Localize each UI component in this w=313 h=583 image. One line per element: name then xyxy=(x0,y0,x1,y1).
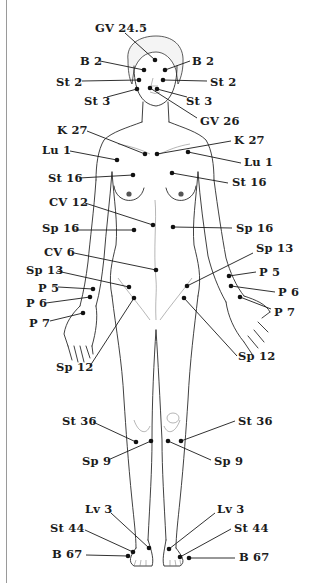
acupoint-dot-sp13_l xyxy=(127,285,132,290)
acupoint-dot-sp16_r xyxy=(171,225,176,230)
leader-line-p5_r xyxy=(229,272,256,276)
leader-line-p5_l xyxy=(58,287,93,289)
point-label-p6_l: P 6 xyxy=(26,297,47,309)
point-label-st3_r: St 3 xyxy=(186,95,212,107)
point-label-lu1_l: Lu 1 xyxy=(42,144,71,156)
point-label-st16_r: St 16 xyxy=(232,176,267,188)
acupoint-dot-st2_r xyxy=(161,78,166,83)
acupoint-dot-b67_r xyxy=(187,556,192,561)
leader-line-p7_l xyxy=(50,313,83,321)
acupoint-dot-b2_l xyxy=(142,68,147,73)
acupoint-dot-p5_l xyxy=(91,287,96,292)
point-label-k27_l: K 27 xyxy=(57,124,88,136)
acupoint-dot-lv3_r xyxy=(167,547,172,552)
point-label-gv26: GV 26 xyxy=(200,115,240,127)
acupoint-dot-lu1_r xyxy=(186,150,191,155)
point-label-st2_r: St 2 xyxy=(210,76,236,88)
acupoint-dot-lv3_l xyxy=(147,546,152,551)
point-label-sp9_r: Sp 9 xyxy=(214,455,243,467)
acupoint-dot-sp16_l xyxy=(132,228,137,233)
acupoint-dot-cv12 xyxy=(151,223,156,228)
point-label-sp16_l: Sp 16 xyxy=(42,222,79,234)
point-label-lv3_r: Lv 3 xyxy=(217,503,245,515)
acupoint-dot-st36_r xyxy=(179,439,184,444)
acupoint-dot-b67_l xyxy=(126,554,131,559)
acupoint-dot-sp9_l xyxy=(149,439,154,444)
point-label-sp13_r: Sp 13 xyxy=(256,242,293,254)
leader-line-k27_r xyxy=(157,141,231,154)
point-label-cv6: CV 6 xyxy=(44,246,75,258)
point-label-b67_r: B 67 xyxy=(239,551,270,563)
acupressure-diagram: GV 24.5B 2B 2St 2St 2St 3St 3GV 26K 27K … xyxy=(0,0,313,583)
leader-line-sp9_r xyxy=(168,441,211,460)
leader-line-st3_l xyxy=(107,89,137,97)
leader-line-sp13_l xyxy=(57,271,129,287)
point-label-st36_l: St 36 xyxy=(62,415,97,427)
acupoint-dot-st16_r xyxy=(170,171,175,176)
leader-line-st16_r xyxy=(172,173,228,183)
point-label-p5_l: P 5 xyxy=(38,282,59,294)
leader-line-lv3_r xyxy=(169,513,215,549)
acupoint-dot-p6_r xyxy=(229,284,234,289)
leader-line-lv3_l xyxy=(111,513,149,548)
point-label-lu1_r: Lu 1 xyxy=(244,156,273,168)
acupoint-dot-lu1_l xyxy=(115,158,120,163)
point-label-st44_r: St 44 xyxy=(234,522,269,534)
acupoint-dot-st2_l xyxy=(137,78,142,83)
point-label-st44_l: St 44 xyxy=(50,522,85,534)
point-label-k27_r: K 27 xyxy=(234,134,265,146)
acupoint-dot-sp13_r xyxy=(185,284,190,289)
leader-line-st44_l xyxy=(85,530,133,552)
acupoint-dot-k27_r xyxy=(155,152,160,157)
point-label-sp13_l: Sp 13 xyxy=(26,264,63,276)
acupoint-dot-p5_r xyxy=(227,274,232,279)
point-label-st16_l: St 16 xyxy=(48,172,83,184)
acupoint-dot-gv24_5 xyxy=(153,58,158,63)
leader-line-st44_r xyxy=(180,529,231,557)
point-label-p7_r: P 7 xyxy=(274,306,295,318)
leader-line-st36_r xyxy=(181,421,235,441)
acupoint-dot-k27_l xyxy=(143,152,148,157)
point-label-sp12_r: Sp 12 xyxy=(238,350,275,362)
point-label-b2_r: B 2 xyxy=(192,55,214,67)
acupoint-dot-gv26 xyxy=(148,86,153,91)
leader-line-cv12 xyxy=(85,203,153,225)
acupoint-dot-st36_l xyxy=(134,440,139,445)
point-label-p6_r: P 6 xyxy=(278,286,299,298)
leader-line-lu1_r xyxy=(188,152,241,163)
point-label-lv3_l: Lv 3 xyxy=(85,503,113,515)
point-label-p7_l: P 7 xyxy=(29,317,50,329)
acupoint-dot-st16_l xyxy=(131,173,136,178)
leader-line-b67_l xyxy=(86,555,128,556)
acupoint-dot-sp12_l xyxy=(132,296,137,301)
point-label-p5_r: P 5 xyxy=(259,266,280,278)
leader-line-p7_r xyxy=(240,297,271,309)
leader-line-p6_l xyxy=(46,297,90,303)
acupoint-dot-sp12_r xyxy=(182,296,187,301)
leader-line-lu1_l xyxy=(70,151,117,160)
point-label-sp16_r: Sp 16 xyxy=(236,222,273,234)
point-label-b67_l: B 67 xyxy=(52,548,83,560)
point-label-cv12: CV 12 xyxy=(49,196,88,208)
point-label-sp9_l: Sp 9 xyxy=(82,455,111,467)
acupoint-dot-st3_l xyxy=(135,87,140,92)
leader-line-cv6 xyxy=(74,253,156,270)
leader-line-sp9_l xyxy=(108,441,151,460)
point-label-sp12_l: Sp 12 xyxy=(56,361,93,373)
acupoint-dot-p7_l xyxy=(81,311,86,316)
leader-line-sp16_r xyxy=(173,227,232,228)
acupoint-dot-st44_r xyxy=(178,555,183,560)
point-label-st2_l: St 2 xyxy=(56,76,82,88)
acupoint-dot-cv6 xyxy=(154,268,159,273)
acupoint-dot-p6_l xyxy=(88,295,93,300)
point-label-st3_l: St 3 xyxy=(84,95,110,107)
leader-line-st2_r xyxy=(163,80,207,81)
point-label-b2_l: B 2 xyxy=(80,55,102,67)
leader-line-st36_l xyxy=(93,422,136,442)
acupoint-dot-p7_r xyxy=(238,295,243,300)
acupoint-dot-st44_l xyxy=(131,550,136,555)
acupoint-dot-sp9_r xyxy=(166,439,171,444)
leader-line-k27_l xyxy=(87,131,145,154)
acupoint-dot-st3_r xyxy=(155,87,160,92)
point-label-gv24_5: GV 24.5 xyxy=(95,22,147,34)
